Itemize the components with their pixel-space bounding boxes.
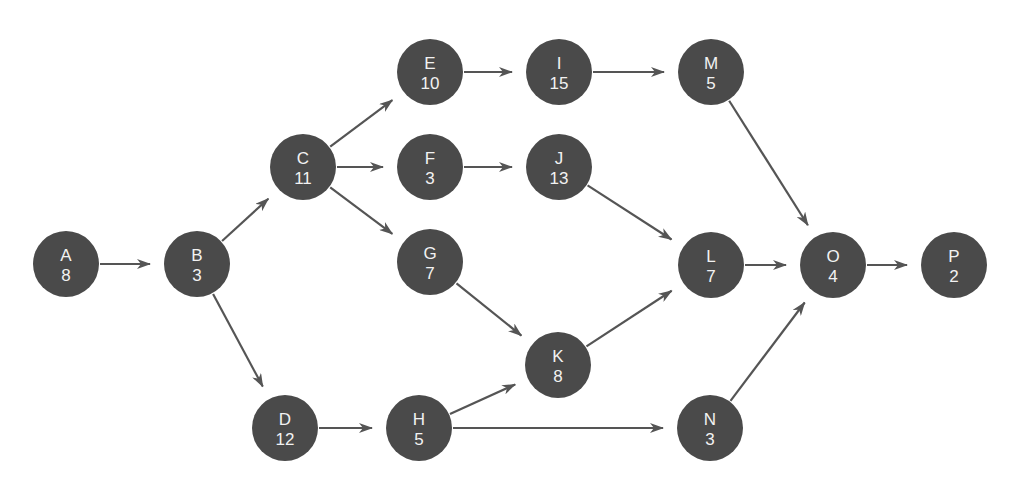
node-o: O4 bbox=[800, 232, 866, 298]
node-duration-label: 12 bbox=[276, 430, 295, 449]
node-c: C11 bbox=[270, 134, 336, 200]
node-duration-label: 7 bbox=[706, 267, 715, 286]
node-b: B3 bbox=[164, 231, 230, 297]
node-id-label: J bbox=[555, 149, 564, 168]
node-duration-label: 11 bbox=[294, 169, 312, 188]
node-a: A8 bbox=[33, 231, 99, 297]
node-duration-label: 2 bbox=[949, 267, 958, 286]
node-id-label: N bbox=[704, 410, 716, 429]
edge-g-k bbox=[456, 283, 521, 335]
node-id-label: H bbox=[413, 410, 425, 429]
edge-n-o bbox=[730, 303, 804, 401]
node-id-label: B bbox=[191, 246, 202, 265]
node-id-label: I bbox=[557, 54, 562, 73]
node-h: H5 bbox=[386, 395, 452, 461]
node-id-label: F bbox=[425, 149, 435, 168]
node-duration-label: 8 bbox=[61, 266, 70, 285]
node-id-label: A bbox=[60, 246, 72, 265]
node-duration-label: 10 bbox=[421, 74, 440, 93]
node-k: K8 bbox=[525, 332, 591, 398]
node-id-label: D bbox=[279, 410, 291, 429]
edge-c-g bbox=[330, 187, 392, 233]
node-duration-label: 3 bbox=[192, 266, 201, 285]
node-l: L7 bbox=[678, 232, 744, 298]
edge-m-o bbox=[729, 101, 808, 226]
node-duration-label: 3 bbox=[425, 169, 434, 188]
node-duration-label: 3 bbox=[705, 430, 714, 449]
nodes-layer: A8B3C11D12E10F3G7H5I15J13K8L7M5N3O4P2 bbox=[33, 39, 987, 461]
node-duration-label: 13 bbox=[550, 169, 569, 188]
node-id-label: K bbox=[552, 347, 564, 366]
edge-k-l bbox=[586, 291, 671, 347]
node-duration-label: 7 bbox=[425, 264, 434, 283]
node-e: E10 bbox=[397, 39, 463, 105]
node-duration-label: 15 bbox=[550, 74, 569, 93]
node-id-label: G bbox=[423, 244, 436, 263]
edge-h-k bbox=[450, 384, 515, 414]
node-g: G7 bbox=[397, 229, 463, 295]
node-n: N3 bbox=[677, 395, 743, 461]
node-id-label: O bbox=[826, 247, 839, 266]
node-id-label: M bbox=[704, 54, 718, 73]
network-diagram: A8B3C11D12E10F3G7H5I15J13K8L7M5N3O4P2 bbox=[0, 0, 1017, 498]
edge-b-c bbox=[222, 199, 268, 241]
node-id-label: E bbox=[424, 54, 435, 73]
node-f: F3 bbox=[397, 134, 463, 200]
node-m: M5 bbox=[678, 39, 744, 105]
node-duration-label: 4 bbox=[828, 267, 837, 286]
node-id-label: P bbox=[948, 247, 959, 266]
node-i: I15 bbox=[526, 39, 592, 105]
node-j: J13 bbox=[526, 134, 592, 200]
node-p: P2 bbox=[921, 232, 987, 298]
node-d: D12 bbox=[252, 395, 318, 461]
edge-j-l bbox=[588, 185, 672, 239]
node-duration-label: 5 bbox=[706, 74, 715, 93]
node-id-label: L bbox=[706, 247, 715, 266]
node-duration-label: 8 bbox=[553, 367, 562, 386]
node-duration-label: 5 bbox=[414, 430, 423, 449]
edge-c-e bbox=[330, 100, 392, 146]
node-id-label: C bbox=[297, 149, 309, 168]
edge-b-d bbox=[213, 294, 263, 387]
